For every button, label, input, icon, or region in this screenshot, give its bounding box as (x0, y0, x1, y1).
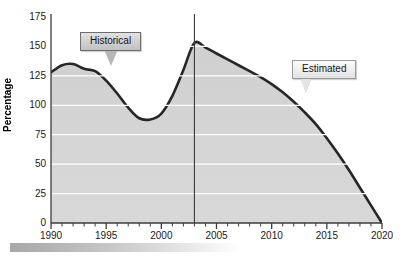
y-tick-label: 50 (35, 158, 46, 169)
y-tick-label: 150 (29, 40, 46, 51)
callout-estimated-label: Estimated (292, 60, 356, 79)
x-tick-label: 2005 (197, 230, 237, 241)
y-tick-label: 0 (40, 217, 46, 228)
chart-figure: Percentage 0255075100125150175 199019952… (0, 0, 410, 257)
y-tick-label: 175 (29, 11, 46, 22)
x-tick-label: 1995 (86, 230, 126, 241)
x-tick-label: 2000 (141, 230, 181, 241)
y-axis-title: Percentage (2, 78, 16, 132)
x-tick-label: 2015 (307, 230, 347, 241)
area-chart-canvas (0, 0, 410, 257)
bottom-gradient-bar (10, 243, 238, 252)
callout-historical-label: Historical (80, 32, 141, 51)
x-axis-ticks (51, 223, 382, 229)
callout-historical: Historical (80, 32, 141, 51)
x-tick-label: 2010 (252, 230, 292, 241)
y-tick-label: 100 (29, 99, 46, 110)
callout-estimated-pointer (301, 79, 311, 92)
y-tick-label: 125 (29, 70, 46, 81)
x-tick-label: 1990 (31, 230, 71, 241)
y-tick-label: 75 (35, 129, 46, 140)
x-tick-label: 2020 (362, 230, 402, 241)
y-tick-label: 25 (35, 188, 46, 199)
callout-historical-pointer (105, 51, 117, 65)
callout-estimated: Estimated (292, 60, 356, 79)
